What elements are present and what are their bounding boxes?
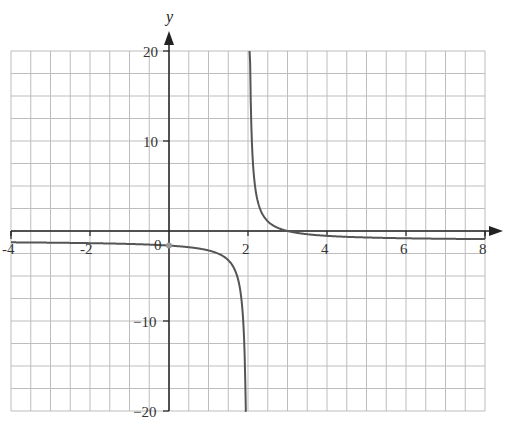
y-tick-label: −20 — [133, 404, 156, 420]
x-tick-label: 0 — [154, 237, 162, 253]
y-tick-label: 20 — [143, 44, 158, 60]
curve-right-branch — [250, 51, 485, 239]
x-tick-label: 8 — [479, 241, 487, 257]
marked-point — [166, 243, 172, 249]
axes — [11, 31, 503, 411]
curve-left-branch — [11, 242, 246, 411]
y-axis-arrow-icon — [164, 31, 174, 45]
x-tick-label: -2 — [80, 241, 93, 257]
x-axis-arrow-icon — [489, 226, 503, 236]
y-tick-label: −10 — [133, 314, 156, 330]
hyperbola-chart: y -4 -2 0 2 4 6 8 20 10 −10 −20 — [0, 0, 509, 424]
x-tick-label: 6 — [400, 241, 408, 257]
y-tick-label: 10 — [143, 134, 158, 150]
y-axis-label: y — [164, 8, 174, 26]
x-tick-label: 4 — [321, 241, 329, 257]
x-tick-label: -4 — [2, 241, 15, 257]
x-tick-label: 2 — [242, 241, 250, 257]
